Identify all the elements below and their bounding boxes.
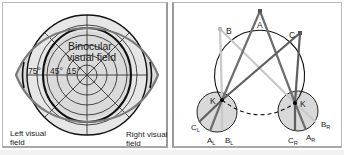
right-visual-field-label-line1: Right visual <box>126 130 168 139</box>
nodal-k-right-label: K <box>300 99 306 109</box>
left-visual-field-label-line2: field <box>10 138 25 147</box>
retina-bl-label: BL <box>225 136 233 146</box>
retina-al-label: AL <box>207 136 215 146</box>
retina-br-label: BR <box>321 120 330 130</box>
nodal-point-right <box>293 101 297 105</box>
degree-label-45: 45° <box>50 66 63 76</box>
point-a-label: A <box>257 20 263 30</box>
retina-cl-label: CL <box>191 123 200 133</box>
degree-label-15: 15° <box>67 66 80 76</box>
retina-cr-label: CR <box>288 136 298 146</box>
right-visual-field-label-line2: field <box>126 139 141 148</box>
degree-label-75: 75° <box>28 66 41 76</box>
point-b-label: B <box>226 26 232 36</box>
diagram-canvas: Binocular visual field 75° 45° 15° Left … <box>0 0 344 155</box>
retina-ar-label: AR <box>306 133 315 143</box>
bottom-strip <box>0 150 344 155</box>
visual-field-diagram: Binocular visual field 75° 45° 15° Left … <box>10 15 168 148</box>
left-visual-field-label-line1: Left visual <box>10 129 46 138</box>
nodal-point-left <box>220 98 224 102</box>
horopter-diagram: A B C K K CL AL BL CR AR BR <box>191 9 330 146</box>
binocular-title-line2: visual field <box>67 51 116 63</box>
point-c-label: C <box>289 30 295 40</box>
nodal-k-left-label: K <box>210 96 216 106</box>
